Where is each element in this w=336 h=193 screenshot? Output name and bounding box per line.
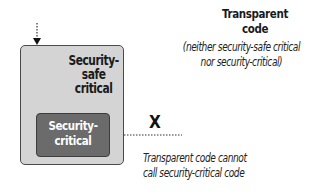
title-line: Transparent [211, 7, 299, 22]
transparent-code-description: (neither security-safe critical nor secu… [170, 40, 313, 70]
label-line: critical [67, 81, 120, 95]
label-line: safe [67, 67, 120, 81]
security-critical-label: Security- critical [40, 119, 105, 148]
description-line: nor security-critical) [170, 55, 313, 70]
blocked-x-icon: X [149, 114, 161, 131]
blocked-call-note: Transparent code cannot call security-cr… [143, 151, 277, 181]
description-line: (neither security-safe critical [170, 40, 313, 55]
arrow-into-outer-box [33, 23, 41, 45]
note-line: Transparent code cannot [143, 151, 277, 166]
label-line: critical [40, 134, 105, 149]
title-line: code [211, 22, 299, 37]
note-line: call security-critical code [143, 166, 277, 181]
label-line: Security- [67, 53, 120, 67]
security-safe-critical-label: Security- safe critical [67, 53, 120, 95]
label-line: Security- [40, 119, 105, 134]
transparent-code-title: Transparent code [211, 7, 299, 36]
